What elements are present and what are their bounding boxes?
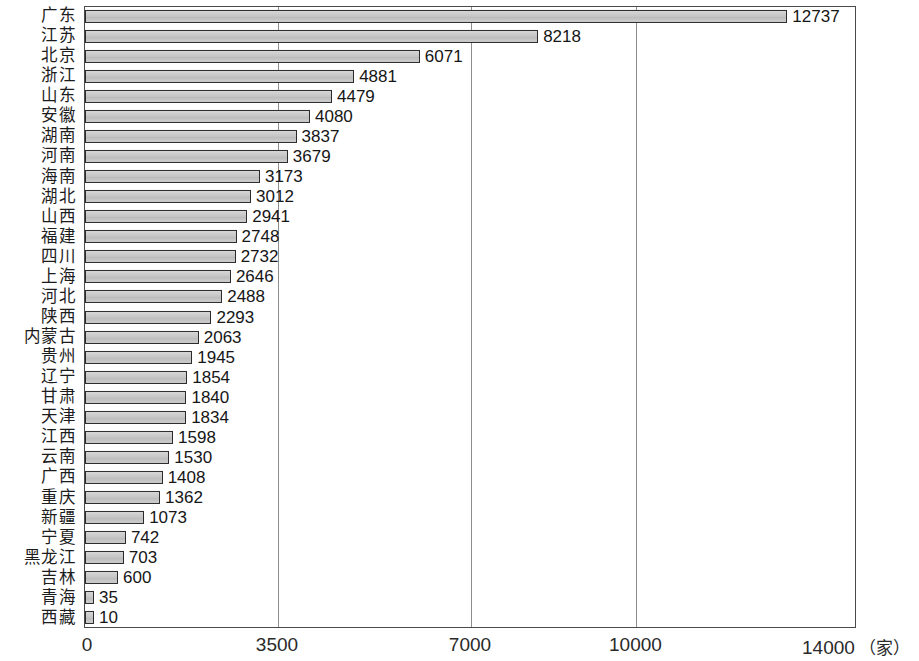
category-label: 海南 xyxy=(41,168,76,185)
bar-value-label: 3837 xyxy=(302,128,340,145)
category-label: 上海 xyxy=(41,269,76,286)
chart-row: 浙江4881 xyxy=(0,66,919,86)
bar-group: 703 xyxy=(85,548,157,568)
bar xyxy=(85,110,310,123)
bar-value-label: 12737 xyxy=(792,8,839,25)
bar-value-label: 1598 xyxy=(178,429,216,446)
chart-row: 辽宁1854 xyxy=(0,367,919,387)
chart-row: 新疆1073 xyxy=(0,508,919,528)
bar-group: 35 xyxy=(85,588,118,608)
chart-row: 安徽4080 xyxy=(0,106,919,126)
bar xyxy=(85,210,247,223)
category-label: 青海 xyxy=(41,590,76,607)
bar-group: 1834 xyxy=(85,407,229,427)
bar-group: 12737 xyxy=(85,6,840,26)
category-label: 安徽 xyxy=(41,108,76,125)
bar-group: 2063 xyxy=(85,327,242,347)
bar-group: 1362 xyxy=(85,488,203,508)
bar-value-label: 35 xyxy=(99,589,118,606)
bar xyxy=(85,50,420,63)
category-label: 贵州 xyxy=(41,349,76,366)
x-tick-label-0: 0 xyxy=(82,634,93,656)
x-tick-label-10000: 10000 xyxy=(609,634,662,656)
category-label: 云南 xyxy=(41,449,76,466)
chart-row: 黑龙江703 xyxy=(0,548,919,568)
bar-value-label: 2748 xyxy=(242,228,280,245)
category-label: 新疆 xyxy=(41,509,76,526)
category-label: 内蒙古 xyxy=(24,329,77,346)
category-label: 陕西 xyxy=(41,309,76,326)
chart-row: 北京6071 xyxy=(0,46,919,66)
bar xyxy=(85,571,118,584)
chart-row: 西藏10 xyxy=(0,608,919,628)
bar xyxy=(85,611,94,624)
bar-value-label: 4479 xyxy=(337,88,375,105)
bar-value-label: 742 xyxy=(131,529,159,546)
bar-value-label: 2646 xyxy=(236,268,274,285)
bar xyxy=(85,471,163,484)
bar-value-label: 1362 xyxy=(165,489,203,506)
bar-value-label: 1945 xyxy=(197,349,235,366)
category-label: 四川 xyxy=(41,249,76,266)
category-label: 甘肃 xyxy=(41,389,76,406)
category-label: 吉林 xyxy=(41,570,76,587)
bar-value-label: 3679 xyxy=(293,148,331,165)
chart-row: 内蒙古2063 xyxy=(0,327,919,347)
bar xyxy=(85,230,237,243)
chart-row: 广东12737 xyxy=(0,6,919,26)
chart-row: 山东4479 xyxy=(0,86,919,106)
bar-value-label: 703 xyxy=(129,549,157,566)
category-label: 山东 xyxy=(41,88,76,105)
bar-value-label: 2488 xyxy=(227,288,265,305)
chart-row: 江西1598 xyxy=(0,427,919,447)
bar-group: 3837 xyxy=(85,126,339,146)
bar-group: 2941 xyxy=(85,207,290,227)
bar-group: 4881 xyxy=(85,66,397,86)
bar-value-label: 1073 xyxy=(149,509,187,526)
bar-group: 600 xyxy=(85,568,151,588)
bar xyxy=(85,290,222,303)
chart-row: 湖南3837 xyxy=(0,126,919,146)
bar-group: 1598 xyxy=(85,427,216,447)
bar-value-label: 10 xyxy=(99,609,118,626)
bar xyxy=(85,511,144,524)
bar xyxy=(85,431,173,444)
chart-row: 云南1530 xyxy=(0,447,919,467)
bar xyxy=(85,591,94,604)
bar-group: 6071 xyxy=(85,46,463,66)
bar-group: 3173 xyxy=(85,167,303,187)
chart-row: 吉林600 xyxy=(0,568,919,588)
bar-value-label: 1840 xyxy=(191,389,229,406)
bar-group: 3012 xyxy=(85,187,294,207)
category-label: 江苏 xyxy=(41,28,76,45)
chart-row: 甘肃1840 xyxy=(0,387,919,407)
bar-value-label: 4080 xyxy=(315,108,353,125)
chart-row: 广西1408 xyxy=(0,467,919,487)
bar-chart: 广东12737江苏8218北京6071浙江4881山东4479安徽4080湖南3… xyxy=(0,0,919,661)
chart-row: 贵州1945 xyxy=(0,347,919,367)
bar xyxy=(85,391,186,404)
category-label: 天津 xyxy=(41,409,76,426)
bar-group: 1408 xyxy=(85,467,205,487)
bar-group: 1945 xyxy=(85,347,235,367)
bar xyxy=(85,351,192,364)
chart-row: 上海2646 xyxy=(0,267,919,287)
chart-row: 四川2732 xyxy=(0,247,919,267)
bar xyxy=(85,371,187,384)
bar xyxy=(85,250,236,263)
category-label: 北京 xyxy=(41,48,76,65)
chart-row: 陕西2293 xyxy=(0,307,919,327)
bar xyxy=(85,491,160,504)
bar-group: 3679 xyxy=(85,146,331,166)
bar-group: 10 xyxy=(85,608,118,628)
bar-group: 4479 xyxy=(85,86,375,106)
chart-row: 河北2488 xyxy=(0,287,919,307)
bar xyxy=(85,70,354,83)
bar-group: 2293 xyxy=(85,307,254,327)
bar-group: 2732 xyxy=(85,247,278,267)
chart-row: 海南3173 xyxy=(0,167,919,187)
bar xyxy=(85,551,124,564)
bar xyxy=(85,150,288,163)
bar-group: 1530 xyxy=(85,447,212,467)
bar xyxy=(85,331,199,344)
